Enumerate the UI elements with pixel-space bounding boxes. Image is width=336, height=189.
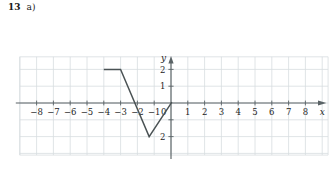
x-tick-label: 5 xyxy=(252,107,257,117)
coordinate-plot: −8−7−6−5−4−3−2−1123456782120 xy xyxy=(0,0,336,189)
x-tick-label: 7 xyxy=(286,107,291,117)
x-tick-label: 1 xyxy=(185,107,190,117)
x-axis-name: x xyxy=(320,107,325,117)
x-tick-label: −6 xyxy=(64,107,77,117)
y-tick-label: 1 xyxy=(160,81,165,91)
x-tick-label: 2 xyxy=(202,107,207,117)
y-tick-label: 2 xyxy=(160,132,165,142)
y-tick-label: 2 xyxy=(160,65,165,75)
y-axis-name: y xyxy=(160,53,167,63)
axes xyxy=(16,56,327,159)
figure-root: 13a) −8−7−6−5−4−3−2−1123456782120 xy xyxy=(0,0,336,189)
x-tick-label: 8 xyxy=(303,107,308,117)
x-tick-label: −3 xyxy=(114,107,127,117)
x-tick-label: −8 xyxy=(30,107,43,117)
x-tick-label: −4 xyxy=(98,107,111,117)
graph-svg: −8−7−6−5−4−3−2−1123456782120 xy xyxy=(0,0,336,189)
x-tick-label: 4 xyxy=(235,107,240,117)
x-tick-label: 6 xyxy=(269,107,274,117)
x-tick-label: −7 xyxy=(47,107,60,117)
x-tick-label: −5 xyxy=(81,107,94,117)
x-tick-label: 3 xyxy=(219,107,224,117)
x-tick-label: −1 xyxy=(148,107,161,117)
